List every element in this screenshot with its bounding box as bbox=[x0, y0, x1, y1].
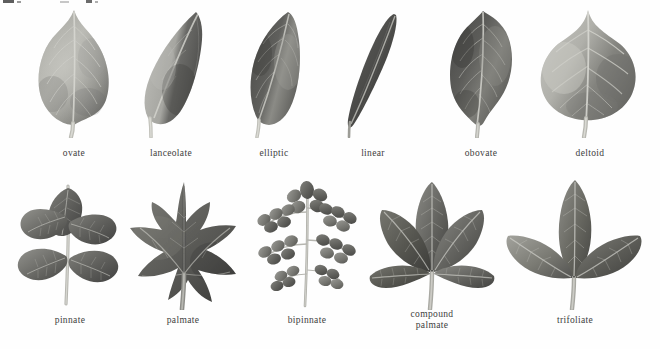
row-simple-leaf-shapes: ovate bbox=[0, 6, 660, 166]
leaflet bbox=[69, 251, 119, 282]
ovate-leaf-image bbox=[18, 6, 130, 138]
caption-compound-palmate-line1: compound bbox=[366, 309, 498, 320]
caption-palmate: palmate bbox=[118, 315, 248, 327]
leaf-figure-ovate: ovate bbox=[18, 6, 130, 138]
leaflet-cluster bbox=[313, 263, 344, 290]
caption-deltoid: deltoid bbox=[530, 148, 650, 160]
linear-leaf-image bbox=[330, 6, 416, 138]
leaf-figure-elliptic: elliptic bbox=[226, 6, 322, 138]
leaflet-cluster bbox=[256, 233, 299, 266]
pinnate-leaf-image bbox=[10, 178, 130, 310]
deltoid-leaf-image bbox=[530, 6, 650, 138]
obovate-leaf-image bbox=[432, 6, 530, 138]
caption-ovate: ovate bbox=[18, 148, 130, 160]
leaf-figure-lanceolate: lanceolate bbox=[118, 6, 224, 138]
leaflet-cluster bbox=[317, 201, 358, 233]
bipinnate-leaf-image bbox=[248, 178, 366, 310]
caption-pinnate: pinnate bbox=[10, 315, 130, 327]
leaf-figure-obovate: obovate bbox=[432, 6, 530, 138]
leaflet bbox=[69, 215, 117, 245]
leaf-figure-linear: linear bbox=[330, 6, 416, 138]
palmate-leaf-image bbox=[118, 178, 248, 310]
caption-bipinnate: bipinnate bbox=[248, 315, 366, 327]
caption-linear: linear bbox=[330, 148, 416, 160]
caption-elliptic: elliptic bbox=[226, 148, 322, 160]
caption-lanceolate: lanceolate bbox=[118, 148, 224, 160]
leaf-reference-plate: ovate bbox=[0, 0, 660, 349]
leaf-figure-bipinnate: bipinnate bbox=[248, 178, 366, 310]
leaflet-cluster bbox=[270, 264, 301, 292]
leaf-figure-deltoid: deltoid bbox=[530, 6, 650, 138]
leaf-figure-pinnate: pinnate bbox=[10, 178, 130, 310]
leaflet-cluster bbox=[255, 202, 296, 234]
leaflet bbox=[434, 265, 494, 288]
caption-obovate: obovate bbox=[432, 148, 530, 160]
caption-compound-palmate-line2: palmate bbox=[366, 320, 498, 331]
leaf-figure-trifoliate: trifoliate bbox=[500, 178, 650, 310]
caption-compound-palmate: compound palmate bbox=[366, 309, 498, 331]
leaflet bbox=[18, 249, 68, 280]
compound-palmate-leaf-image bbox=[366, 178, 498, 310]
trifoliate-leaf-image bbox=[500, 178, 650, 310]
elliptic-leaf-image bbox=[226, 6, 322, 138]
leaf-figure-palmate: palmate bbox=[118, 178, 248, 310]
leaflet-cluster bbox=[315, 232, 358, 265]
caption-trifoliate: trifoliate bbox=[500, 315, 650, 327]
leaflet bbox=[370, 265, 430, 288]
leaf-figure-compound-palmate: compound palmate bbox=[366, 178, 498, 310]
row-compound-leaf-arrangements: pinnate bbox=[0, 178, 660, 348]
lanceolate-leaf-image bbox=[118, 6, 224, 138]
